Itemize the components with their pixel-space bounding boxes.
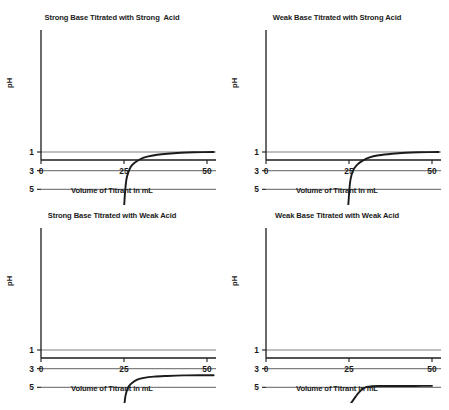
x-axis-label: Volume of Titrant in mL (0, 384, 224, 393)
y-axis-label: pH (230, 78, 239, 88)
y-tick-label: 3 (29, 364, 34, 374)
x-tick-label: 50 (427, 364, 437, 374)
x-ticks: 02550 (264, 358, 437, 374)
y-tick-label: 3 (254, 166, 259, 176)
plot-area-weak-base-weak-acid: 13579111302550 (225, 198, 449, 403)
plot-area-weak-base-strong-acid: 13579111302550 (225, 0, 449, 205)
x-tick-label: 50 (427, 166, 437, 176)
y-tick-label: 7 (254, 401, 259, 403)
y-axis-label: pH (230, 276, 239, 286)
x-tick-label: 50 (202, 166, 212, 176)
y-gridlines: 135791113 (250, 345, 441, 403)
chart-panel-weak-base-strong-acid: Weak Base Titrated with Strong Acid13579… (225, 0, 449, 205)
y-tick-label: 7 (29, 401, 34, 403)
y-tick-label: 1 (254, 345, 259, 355)
x-ticks: 02550 (39, 358, 212, 374)
x-tick-label: 0 (39, 166, 44, 176)
y-tick-label: 3 (254, 364, 259, 374)
y-gridlines: 135791113 (25, 147, 216, 205)
x-tick-label: 0 (264, 166, 269, 176)
x-ticks: 02550 (39, 160, 212, 176)
x-axis-label: Volume of Titrant in mL (0, 186, 224, 195)
x-tick-label: 25 (119, 364, 129, 374)
x-ticks: 02550 (264, 160, 437, 176)
x-axis-label: Volume of Titrant in mL (225, 384, 449, 393)
y-tick-label: 1 (29, 147, 34, 157)
y-gridlines: 135791113 (250, 147, 441, 205)
x-tick-label: 50 (202, 364, 212, 374)
axes (266, 30, 441, 160)
y-tick-label: 1 (254, 147, 259, 157)
plot-area-strong-base-weak-acid: 13579111302550 (0, 198, 224, 403)
y-tick-label: 1 (29, 345, 34, 355)
x-tick-label: 0 (264, 364, 269, 374)
y-gridlines: 135791113 (25, 345, 216, 403)
chart-panel-weak-base-weak-acid: Weak Base Titrated with Weak Acid1357911… (225, 198, 449, 403)
y-axis-label: pH (5, 276, 14, 286)
x-tick-label: 0 (39, 364, 44, 374)
x-tick-label: 25 (344, 364, 354, 374)
titration-curves-figure: Strong Base Titrated with Strong Acid135… (0, 0, 449, 410)
y-tick-label: 3 (29, 166, 34, 176)
y-axis-label: pH (5, 78, 14, 88)
axes (41, 30, 216, 160)
axes (41, 228, 216, 358)
chart-panel-strong-base-strong-acid: Strong Base Titrated with Strong Acid135… (0, 0, 224, 205)
axes (266, 228, 441, 358)
chart-panel-strong-base-weak-acid: Strong Base Titrated with Weak Acid13579… (0, 198, 224, 403)
plot-area-strong-base-strong-acid: 13579111302550 (0, 0, 224, 205)
x-axis-label: Volume of Titrant in mL (225, 186, 449, 195)
